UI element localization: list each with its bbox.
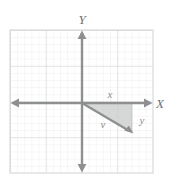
coordinate-plane-diagram: Y X x y v [0, 0, 177, 183]
vector-components-figure: Y X x y v [0, 0, 177, 183]
vector-magnitude-label: v [101, 118, 106, 130]
x-component-label: x [107, 88, 113, 100]
x-axis-label: X [155, 96, 165, 111]
y-axis-label: Y [78, 12, 87, 27]
y-component-label: y [139, 114, 145, 126]
